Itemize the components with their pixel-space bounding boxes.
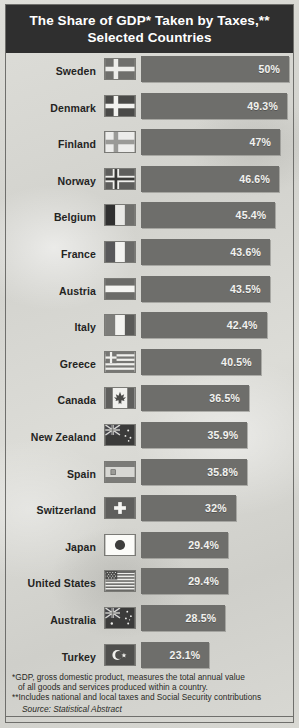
country-label: Canada [6, 385, 96, 415]
flag-austria-icon [104, 278, 136, 300]
country-label: Austria [6, 276, 96, 306]
flag-cell [104, 424, 136, 446]
country-label: Italy [6, 312, 96, 342]
bar-row: Belgium45.4% [6, 202, 293, 239]
flag-cell [104, 204, 136, 226]
flag-finland-icon [104, 131, 136, 153]
country-label: Spain [6, 459, 96, 489]
value-bar: 29.4% [141, 568, 228, 594]
bar-row: Sweden50% [6, 56, 293, 93]
value-bar: 36.5% [141, 385, 249, 411]
value-bar: 35.9% [141, 422, 247, 448]
bar-rows: Sweden50%Denmark49.3%Finland47%Norway46.… [6, 56, 293, 678]
value-label: 40.5% [221, 356, 261, 368]
flag-cell [104, 387, 136, 409]
country-label: Denmark [6, 93, 96, 123]
flag-cell [104, 497, 136, 519]
value-label: 46.6% [239, 173, 279, 185]
flag-australia-icon [104, 607, 136, 629]
flag-canada-icon [104, 387, 136, 409]
flag-spain-icon [104, 461, 136, 483]
country-label: Japan [6, 532, 96, 562]
flag-turkey-icon [104, 644, 136, 666]
bar-row: Denmark49.3% [6, 93, 293, 130]
country-label: New Zealand [6, 422, 96, 452]
footnote-gdp: *GDP, gross domestic product, measures t… [12, 672, 290, 682]
footnote-gdp-cont: of all goods and services produced withi… [12, 682, 290, 692]
country-label: United States [6, 568, 96, 598]
bar-row: New Zealand35.9% [6, 422, 293, 459]
bar-row: Finland47% [6, 129, 293, 166]
value-label: 50% [258, 63, 289, 75]
value-label: 29.4% [188, 575, 228, 587]
bottom-rule [6, 716, 293, 717]
bar-row: Australia28.5% [6, 605, 293, 642]
value-bar: 40.5% [141, 349, 261, 375]
value-label: 32% [205, 502, 236, 514]
value-label: 35.8% [207, 466, 247, 478]
value-label: 42.4% [227, 319, 267, 331]
value-bar: 43.5% [141, 276, 270, 302]
flag-france-icon [104, 241, 136, 263]
country-label: Belgium [6, 202, 96, 232]
value-label: 35.9% [207, 429, 247, 441]
flag-cell [104, 168, 136, 190]
value-label: 36.5% [209, 392, 249, 404]
country-label: Switzerland [6, 495, 96, 525]
flag-switzerland-icon [104, 497, 136, 519]
country-label: Australia [6, 605, 96, 635]
flag-cell [104, 131, 136, 153]
flag-belgium-icon [104, 204, 136, 226]
bar-row: Italy42.4% [6, 312, 293, 349]
value-bar: 46.6% [141, 166, 279, 192]
value-bar: 28.5% [141, 605, 225, 631]
country-label: Greece [6, 349, 96, 379]
flag-cell [104, 314, 136, 336]
value-bar: 23.1% [141, 642, 209, 668]
bar-row: Canada36.5% [6, 385, 293, 422]
bar-row: United States29.4% [6, 568, 293, 605]
flag-cell [104, 241, 136, 263]
bar-row: Switzerland32% [6, 495, 293, 532]
flag-cell [104, 534, 136, 556]
footnotes: *GDP, gross domestic product, measures t… [12, 672, 290, 714]
flag-japan-icon [104, 534, 136, 556]
flag-cell [104, 58, 136, 80]
value-bar: 42.4% [141, 312, 267, 338]
bar-row: Spain35.8% [6, 459, 293, 496]
country-label: Sweden [6, 56, 96, 86]
value-bar: 45.4% [141, 202, 275, 228]
value-bar: 49.3% [141, 93, 287, 119]
value-label: 43.5% [230, 283, 270, 295]
flag-cell [104, 607, 136, 629]
flag-cell [104, 351, 136, 373]
flag-new-zealand-icon [104, 424, 136, 446]
value-bar: 29.4% [141, 532, 228, 558]
flag-cell [104, 95, 136, 117]
flag-cell [104, 278, 136, 300]
flag-cell [104, 570, 136, 592]
value-label: 29.4% [188, 539, 228, 551]
chart-header: The Share of GDP* Taken by Taxes,** Sele… [6, 5, 293, 53]
flag-italy-icon [104, 314, 136, 336]
chart-figure: The Share of GDP* Taken by Taxes,** Sele… [0, 0, 299, 728]
value-label: 23.1% [170, 649, 210, 661]
bar-row: Austria43.5% [6, 276, 293, 313]
bar-row: Greece40.5% [6, 349, 293, 386]
flag-cell [104, 461, 136, 483]
bar-row: Japan29.4% [6, 532, 293, 569]
value-bar: 32% [141, 495, 236, 521]
footnote-taxes: **Includes national and local taxes and … [12, 692, 290, 702]
bar-row: France43.6% [6, 239, 293, 276]
country-label: Turkey [6, 642, 96, 672]
country-label: France [6, 239, 96, 269]
source-line: Source: Statistical Abstract [12, 704, 290, 714]
bar-row: Norway46.6% [6, 166, 293, 203]
value-bar: 43.6% [141, 239, 270, 265]
value-label: 28.5% [186, 612, 226, 624]
flag-greece-icon [104, 351, 136, 373]
value-label: 49.3% [247, 100, 287, 112]
country-label: Finland [6, 129, 96, 159]
flag-norway-icon [104, 168, 136, 190]
flag-cell [104, 644, 136, 666]
